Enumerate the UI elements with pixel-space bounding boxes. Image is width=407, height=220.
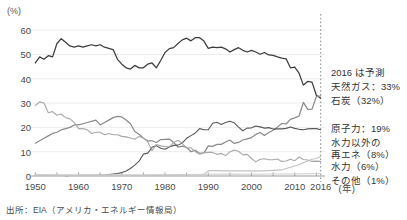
legend-item-1: 石炭（32%）: [331, 96, 390, 106]
x-tick-1970: 1970: [111, 181, 132, 192]
legend-item-5: 水力（6%）: [331, 162, 385, 172]
legend-item-6: その他（1%）: [331, 176, 395, 186]
legend-item-0: 天然ガス：33%: [331, 82, 400, 92]
legend-item-3: 水力以外の: [331, 138, 381, 148]
energy-share-line-chart: (%) 0102030405060 1950196019701980199020…: [0, 0, 407, 220]
legend-item-4: 再エネ（8%）: [331, 150, 395, 160]
legend-item-2: 原子力：19%: [331, 124, 390, 134]
x-axis-tick-labels: 19501960197019801990200020102016(年): [0, 0, 407, 220]
legend-forecast-note: 2016 は予測: [331, 68, 385, 78]
x-tick-2010: 2010: [284, 181, 305, 192]
x-tick-1990: 1990: [198, 181, 219, 192]
source-note: 出所：EIA（アメリカ・エネルギー情報局）: [6, 203, 182, 215]
x-tick-1950: 1950: [25, 181, 46, 192]
x-tick-1980: 1980: [154, 181, 175, 192]
x-tick-2000: 2000: [241, 181, 262, 192]
x-tick-1960: 1960: [68, 181, 89, 192]
x-tick-2016: 2016: [310, 181, 331, 192]
